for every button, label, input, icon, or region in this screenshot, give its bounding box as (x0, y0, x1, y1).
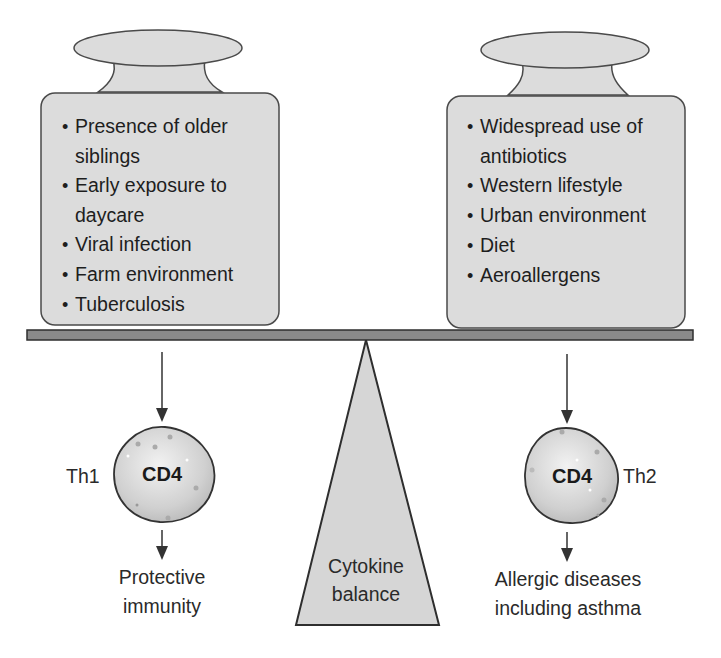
list-item: Western lifestyle (467, 171, 682, 201)
list-item: Presence of older siblings (62, 112, 272, 171)
right-weight-list: Widespread use of antibiotics Western li… (467, 112, 682, 291)
list-item: Diet (467, 231, 682, 261)
left-outcome-line2: immunity (92, 592, 232, 621)
list-item: Tuberculosis (62, 290, 272, 320)
left-cd4-label: CD4 (142, 463, 182, 486)
list-item: Aeroallergens (467, 261, 682, 291)
right-cd4-label: CD4 (552, 465, 592, 488)
list-item: Urban environment (467, 201, 682, 231)
list-item: Viral infection (62, 230, 272, 260)
th1-label: Th1 (66, 462, 108, 491)
list-item: Early exposure to daycare (62, 171, 272, 230)
balance-beam (27, 330, 693, 340)
th2-label: Th2 (623, 462, 667, 491)
right-outcome-line1: Allergic diseases (477, 565, 659, 594)
fulcrum-line2: balance (316, 580, 416, 609)
list-item: Farm environment (62, 260, 272, 290)
right-outcome-line2: including asthma (477, 594, 659, 623)
left-outcome-line1: Protective (92, 563, 232, 592)
list-item: Widespread use of antibiotics (467, 112, 682, 171)
fulcrum-line1: Cytokine (316, 552, 416, 581)
left-weight-list: Presence of older siblings Early exposur… (62, 112, 272, 320)
